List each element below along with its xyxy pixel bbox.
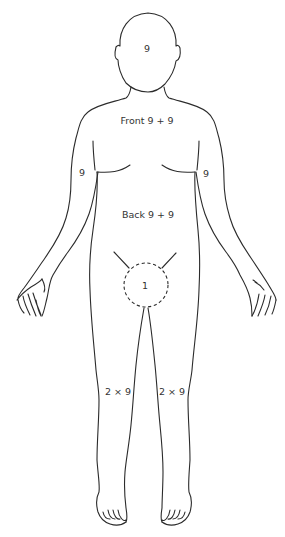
right-torso-leg-outline xyxy=(162,172,200,525)
groin-left-line xyxy=(114,252,129,268)
right-leg-label: 2 × 9 xyxy=(159,387,185,397)
right-inner-arm xyxy=(196,172,252,316)
perineum-label: 1 xyxy=(142,281,148,291)
left-body-outline xyxy=(17,87,131,300)
right-inner-leg xyxy=(148,308,163,522)
left-foot-toes xyxy=(103,510,126,521)
groin-right-line xyxy=(162,253,176,268)
left-hand xyxy=(18,279,45,316)
back-trunk-label: Back 9 + 9 xyxy=(122,210,174,220)
head-label: 9 xyxy=(144,44,150,54)
front-trunk-label: Front 9 + 9 xyxy=(120,116,173,126)
right-hand xyxy=(252,280,276,316)
left-leg-label: 2 × 9 xyxy=(105,387,131,397)
left-inner-leg xyxy=(125,308,144,522)
right-foot-toes xyxy=(162,510,185,521)
left-torso-leg-outline xyxy=(90,172,126,525)
left-arm-label: 9 xyxy=(79,168,85,178)
rule-of-nines-diagram: 9 Front 9 + 9 9 9 Back 9 + 9 1 2 × 9 2 ×… xyxy=(0,0,285,537)
chest-left-contour xyxy=(93,141,130,172)
body-outline-figure xyxy=(0,0,285,537)
right-arm-label: 9 xyxy=(203,169,209,179)
chest-right-contour xyxy=(162,141,199,172)
right-body-outline xyxy=(164,87,276,300)
